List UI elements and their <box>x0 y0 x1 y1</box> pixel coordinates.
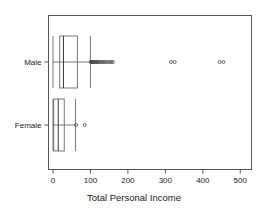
x-tick-label: 300 <box>159 176 173 185</box>
boxplot-canvas: 0100200300400500 MaleFemale Total Person… <box>0 0 269 213</box>
x-axis-title: Total Personal Income <box>87 192 181 203</box>
x-tick-label: 0 <box>51 176 56 185</box>
boxplot-figure: 0100200300400500 MaleFemale Total Person… <box>0 0 269 213</box>
x-tick-label: 200 <box>121 176 135 185</box>
x-tick-label: 400 <box>196 176 210 185</box>
x-tick-label: 100 <box>84 176 98 185</box>
y-tick-label-female: Female <box>15 121 42 130</box>
y-tick-label-male: Male <box>24 58 42 67</box>
x-tick-label: 500 <box>234 176 248 185</box>
